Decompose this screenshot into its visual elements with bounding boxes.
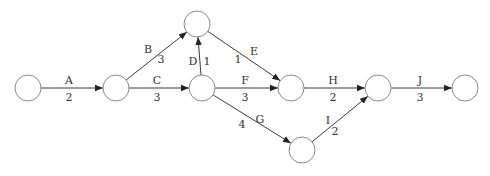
event-node-n1 xyxy=(15,75,41,101)
activity-duration: 3 xyxy=(417,91,424,104)
edge-d xyxy=(198,37,201,75)
event-node-n3 xyxy=(184,11,210,37)
activity-name: F xyxy=(241,74,249,87)
activity-duration: 4 xyxy=(239,118,246,131)
activity-duration: 3 xyxy=(242,91,249,104)
circle-icon xyxy=(189,75,215,101)
arrow-icon xyxy=(126,32,187,80)
activity-duration: 2 xyxy=(66,91,73,104)
circle-icon xyxy=(289,137,315,163)
circle-icon xyxy=(184,11,210,37)
activity-duration: 2 xyxy=(330,91,337,104)
activity-duration: 3 xyxy=(154,91,161,104)
circle-icon xyxy=(365,75,391,101)
event-node-n4 xyxy=(189,75,215,101)
circle-icon xyxy=(452,75,478,101)
activity-duration: 1 xyxy=(204,55,211,68)
event-node-n2 xyxy=(103,75,129,101)
activity-duration: 2 xyxy=(332,125,339,138)
event-node-n7 xyxy=(365,75,391,101)
arrow-icon xyxy=(312,96,368,142)
event-node-n6 xyxy=(289,137,315,163)
activity-name: A xyxy=(64,74,74,87)
activity-name: B xyxy=(144,43,152,56)
edge-b xyxy=(126,32,187,80)
activity-name: D xyxy=(189,55,198,68)
event-node-n8 xyxy=(452,75,478,101)
circle-icon xyxy=(15,75,41,101)
activity-name: J xyxy=(417,74,422,87)
edge-g xyxy=(213,95,291,143)
activity-duration: 3 xyxy=(158,53,165,66)
activity-duration: 1 xyxy=(235,53,242,66)
network-diagram: A2B3C3D1E1F3G4H2I2J3 xyxy=(0,0,490,176)
event-node-n5 xyxy=(278,75,304,101)
edge-i xyxy=(312,96,368,142)
activity-name: C xyxy=(153,74,161,87)
nodes xyxy=(15,11,478,163)
activity-name: H xyxy=(328,74,338,87)
circle-icon xyxy=(103,75,129,101)
arrow-icon xyxy=(198,37,201,75)
activity-name: E xyxy=(250,45,258,58)
activity-name: I xyxy=(326,114,330,127)
arrow-icon xyxy=(213,95,291,143)
circle-icon xyxy=(278,75,304,101)
activity-name: G xyxy=(256,113,265,126)
